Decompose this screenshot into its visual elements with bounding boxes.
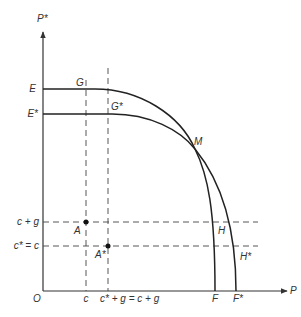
- label-H-star: H*: [240, 251, 252, 262]
- label-F: F: [212, 293, 219, 304]
- label-c-star-plus-g: c* + g = c + g: [100, 293, 160, 304]
- label-c-star-eq-c: c* = c: [14, 240, 39, 251]
- label-c-plus-g: c + g: [17, 216, 39, 227]
- label-E: E: [29, 83, 36, 94]
- point-A-star: [106, 244, 111, 249]
- frontier-curve-E-F: [43, 89, 215, 291]
- label-A-star: A*: [94, 249, 107, 260]
- frontier-curve-Estar-Fstar: [43, 114, 236, 291]
- label-A: A: [73, 225, 81, 236]
- diagram-canvas: P* P O E E* c + g c* = c c c* + g = c + …: [0, 0, 301, 317]
- point-A: [84, 220, 89, 225]
- label-H: H: [218, 225, 226, 236]
- label-E-star: E*: [27, 108, 39, 119]
- y-axis-label: P*: [37, 13, 49, 24]
- x-axis-label: P: [290, 285, 297, 296]
- label-G-star: G*: [111, 101, 124, 112]
- label-G: G: [76, 77, 84, 88]
- origin-label: O: [33, 293, 41, 304]
- label-F-star: F*: [233, 293, 244, 304]
- label-c: c: [84, 293, 89, 304]
- label-M: M: [194, 136, 203, 147]
